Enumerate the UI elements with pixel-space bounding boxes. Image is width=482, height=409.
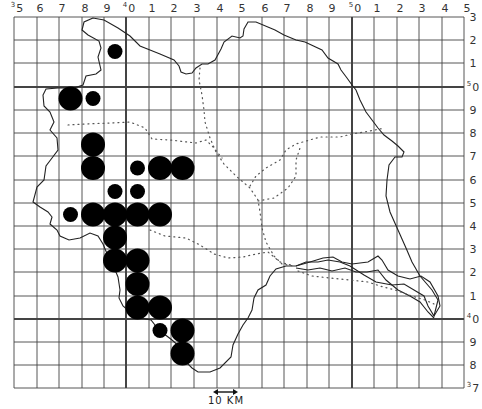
record-dot-large <box>148 296 172 320</box>
easting-label: 4 <box>217 2 224 15</box>
northing-label: 3 <box>470 11 477 24</box>
easting-label: 1 <box>374 2 381 15</box>
record-dot-small <box>108 184 123 199</box>
scale-bar: 10 KM <box>202 388 262 408</box>
easting-label: 7 <box>284 2 291 15</box>
easting-label: 8 <box>82 2 89 15</box>
easting-label: 2 <box>397 2 404 15</box>
record-dot-small <box>153 323 168 338</box>
easting-label: 9 <box>329 2 336 15</box>
easting-label: 40 <box>123 2 135 15</box>
record-dot-large <box>59 87 83 111</box>
record-dot-large <box>103 226 127 250</box>
record-dot-small <box>130 184 145 199</box>
record-dot-large <box>81 203 105 227</box>
northing-label: 7 <box>470 150 477 163</box>
record-dot-small <box>63 207 78 222</box>
northing-label: 2 <box>470 34 477 47</box>
northing-label: 4 <box>470 220 477 233</box>
easting-label: 8 <box>307 2 314 15</box>
northing-label: 40 <box>467 313 479 326</box>
record-dot-large <box>148 156 172 180</box>
record-dot-large <box>81 156 105 180</box>
scale-label: 10 KM <box>196 395 256 406</box>
record-dot-large <box>148 203 172 227</box>
northing-label: 6 <box>470 174 477 187</box>
record-dot-large <box>103 203 127 227</box>
northing-label: 8 <box>470 359 477 372</box>
northing-label: 3 <box>470 243 477 256</box>
northing-label: 2 <box>470 266 477 279</box>
record-dot-large <box>126 249 150 273</box>
record-dot-large <box>81 133 105 157</box>
record-dot-small <box>108 44 123 59</box>
northing-label: 9 <box>470 336 477 349</box>
northing-label: 8 <box>470 127 477 140</box>
easting-label: 50 <box>349 2 361 15</box>
easting-label: 6 <box>262 2 269 15</box>
easting-label: 2 <box>171 2 178 15</box>
record-dot-large <box>171 342 195 366</box>
record-dot-large <box>171 156 195 180</box>
record-dot-small <box>86 91 101 106</box>
easting-label: 3 <box>194 2 201 15</box>
northing-label: 50 <box>467 81 479 94</box>
record-dot-large <box>126 203 150 227</box>
easting-label: 5 <box>239 2 246 15</box>
northing-label: 1 <box>470 290 477 303</box>
northing-label: 1 <box>470 57 477 70</box>
northing-label: 9 <box>470 104 477 117</box>
record-dot-large <box>126 296 150 320</box>
easting-label: 35 <box>11 2 23 15</box>
record-dot-large <box>103 249 127 273</box>
northing-label: 5 <box>470 197 477 210</box>
estuary <box>296 256 440 318</box>
easting-label: 6 <box>37 2 44 15</box>
northing-label: 37 <box>467 382 479 395</box>
easting-label: 4 <box>442 2 449 15</box>
record-dot-large <box>126 272 150 296</box>
easting-label: 1 <box>149 2 156 15</box>
easting-label: 3 <box>419 2 426 15</box>
easting-label: 7 <box>59 2 66 15</box>
easting-label: 9 <box>104 2 111 15</box>
distribution-map <box>0 0 482 409</box>
record-dot-small <box>130 161 145 176</box>
record-dot-large <box>171 319 195 343</box>
